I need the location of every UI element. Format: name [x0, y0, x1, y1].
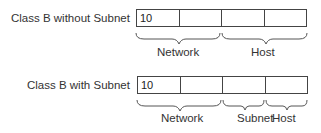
brace-network [134, 31, 310, 45]
octet-cell [181, 77, 224, 93]
row-label-with-subnet: Class B with Subnet [27, 79, 130, 91]
octet-cell [223, 77, 266, 93]
address-boxes-without-subnet: 10 [136, 9, 307, 27]
octet-cell [180, 10, 223, 26]
address-boxes-with-subnet: 10 [137, 76, 308, 94]
brace-network-subnet-host [135, 98, 311, 112]
field-label-host: Host [251, 46, 275, 58]
field-label-network: Network [157, 46, 199, 58]
row-label-without-subnet: Class B without Subnet [11, 12, 130, 24]
octet-cell [266, 77, 308, 93]
octet-cell: 10 [138, 77, 181, 93]
field-label-network: Network [161, 112, 203, 124]
octet-cell [222, 10, 265, 26]
field-label-subnet: Subnet [237, 112, 273, 124]
field-label-host: Host [272, 112, 296, 124]
octet-cell: 10 [137, 10, 180, 26]
octet-cell [265, 10, 307, 26]
